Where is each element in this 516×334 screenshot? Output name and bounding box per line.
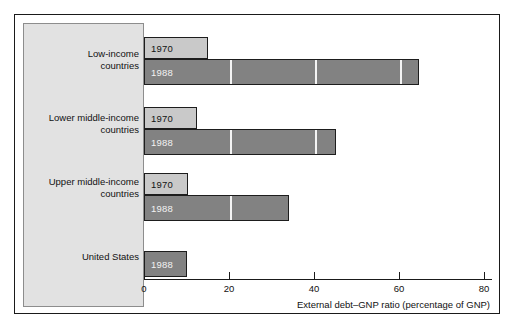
bar-label-lower-middle-income-1988: 1988 (151, 137, 173, 148)
x-axis-tick-20 (229, 272, 230, 279)
bar-upper-middle-income-1970: 1970 (144, 173, 188, 195)
x-axis-label-60: 60 (394, 283, 405, 294)
category-label-panel: Low-income countries Lower middle-income… (23, 23, 144, 307)
bar-lower-middle-income-1970: 1970 (144, 107, 197, 129)
bar-label-upper-middle-income-1970: 1970 (151, 179, 173, 190)
gridline-20 (230, 130, 232, 154)
bar-upper-middle-income-1988: 1988 (144, 195, 289, 221)
x-axis-label-20: 20 (224, 283, 235, 294)
x-axis-label-0: 0 (141, 283, 146, 294)
plot-area: 1970 1988 1970 1988 1970 (144, 23, 492, 307)
gridline-40 (315, 130, 317, 154)
bar-label-lower-middle-income-1970: 1970 (151, 113, 173, 124)
chart-frame: Low-income countries Lower middle-income… (14, 14, 500, 314)
category-label-lower-middle-income: Lower middle-income countries (49, 112, 143, 135)
bar-label-low-income-1970: 1970 (151, 43, 173, 54)
bar-label-upper-middle-income-1988: 1988 (151, 203, 173, 214)
chart-figure: Low-income countries Lower middle-income… (0, 0, 516, 334)
category-label-united-states: United States (82, 251, 143, 263)
x-axis-title: External debt–GNP ratio (percentage of G… (297, 299, 490, 310)
bar-label-low-income-1988: 1988 (151, 67, 173, 78)
bar-lower-middle-income-1988: 1988 (144, 129, 336, 155)
category-label-upper-middle-income: Upper middle-income countries (49, 176, 143, 199)
bar-low-income-1988: 1988 (144, 59, 419, 85)
gridline-40 (315, 60, 317, 84)
x-axis-label-80: 80 (479, 283, 490, 294)
x-axis-tick-60 (399, 272, 400, 279)
bar-label-united-states-1988: 1988 (151, 259, 173, 270)
bar-low-income-1970: 1970 (144, 37, 208, 59)
x-axis-tick-40 (314, 272, 315, 279)
x-axis-tick-0 (144, 272, 145, 279)
gridline-20 (230, 196, 232, 220)
x-axis-line (144, 279, 492, 280)
category-label-low-income: Low-income countries (88, 48, 143, 71)
gridline-20 (230, 60, 232, 84)
x-axis-label-40: 40 (309, 283, 320, 294)
x-axis-tick-80 (484, 272, 485, 279)
gridline-60 (400, 60, 402, 84)
bar-united-states-1988: 1988 (144, 251, 187, 277)
